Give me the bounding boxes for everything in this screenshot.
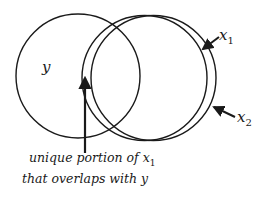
- circle-x1: [82, 16, 207, 141]
- label-y: y: [41, 58, 51, 76]
- label-x2: x2: [237, 108, 252, 128]
- caption: unique portion of x1 that overlaps with …: [22, 150, 222, 186]
- label-x1: x1: [219, 26, 234, 46]
- caption-line-1: unique portion of x1: [22, 150, 222, 171]
- caption-line-2: that overlaps with y: [22, 171, 222, 186]
- circle-x2: [91, 16, 216, 141]
- arrow-x2: [214, 107, 235, 117]
- circle-y: [16, 14, 140, 138]
